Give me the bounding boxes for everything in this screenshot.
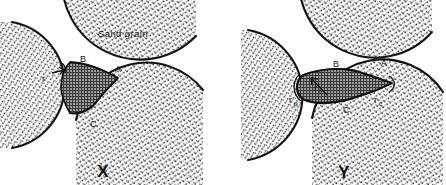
- panel-caption-y: Y: [338, 163, 350, 182]
- label-radius-rc-base: r: [374, 95, 377, 105]
- label-contact-c-y: C: [343, 105, 350, 115]
- label-radius-rp-base: r: [289, 95, 292, 105]
- panel-caption-x: X: [97, 162, 109, 181]
- label-radius-rp-sub: p: [294, 100, 298, 108]
- figure-sand-grain-liquid-bridges: Sand grain A B C r X: [0, 0, 446, 185]
- diagram-canvas: Sand grain A B C r X: [0, 0, 446, 185]
- label-contact-c-x: C: [90, 119, 97, 129]
- label-radius-rt-base: r: [314, 83, 317, 93]
- label-sand-grain: Sand grain: [98, 28, 148, 39]
- label-contact-b-x: B: [80, 54, 86, 64]
- label-radius-rt-sub: t: [319, 88, 321, 95]
- label-contact-a-y: A: [381, 58, 387, 68]
- label-contact-a-x: A: [115, 64, 121, 74]
- label-radius-r-x: r: [42, 74, 45, 84]
- label-contact-b-y: B: [333, 59, 339, 69]
